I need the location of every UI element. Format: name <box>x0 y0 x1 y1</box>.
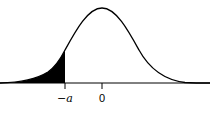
bell-curve <box>0 8 210 83</box>
normal-curve-diagram: −a 0 <box>0 0 219 116</box>
label-zero: 0 <box>99 92 105 104</box>
label-neg-a: −a <box>57 92 73 105</box>
